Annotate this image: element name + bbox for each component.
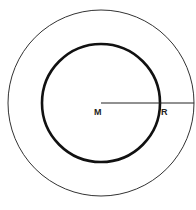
radius-label-r: R: [161, 107, 168, 117]
concentric-circles-diagram: M R: [0, 0, 196, 210]
center-label-m: M: [94, 107, 102, 117]
